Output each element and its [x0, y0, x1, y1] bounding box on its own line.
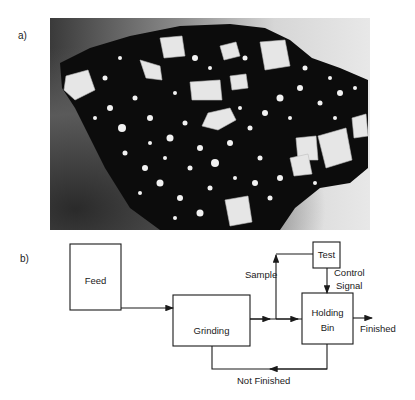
- feed-label: Feed: [85, 275, 107, 286]
- not-finished-loop: [212, 344, 327, 369]
- sample-label: Sample: [245, 269, 277, 280]
- holding-label: Holding: [311, 307, 343, 318]
- grinding-label: Grinding: [194, 325, 230, 336]
- bin-label: Bin: [321, 322, 335, 333]
- holding-bin-box: [302, 293, 353, 344]
- signal-label: Signal: [336, 280, 362, 291]
- grinding-box: [173, 295, 250, 346]
- finished-label: Finished: [360, 323, 396, 334]
- control-label: Control: [334, 267, 365, 278]
- rock-sample-image: [50, 18, 370, 230]
- process-flow-diagram: Feed Grinding Holding Bin Test Sample Co…: [0, 236, 415, 400]
- test-label: Test: [318, 249, 336, 260]
- rock-micrograph-photo: [50, 18, 370, 230]
- not-finished-label: Not Finished: [237, 375, 290, 386]
- panel-a-label: a): [18, 30, 27, 41]
